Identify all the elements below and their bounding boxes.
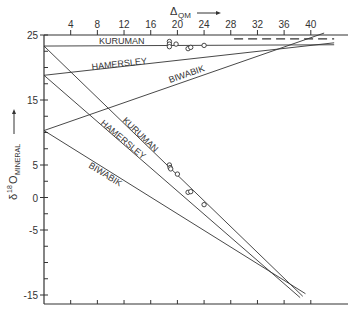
x-axis-title: Δ QM [170, 5, 221, 20]
x-tick-label: 28 [225, 19, 237, 30]
x-tick-label: 16 [145, 19, 157, 30]
series-line [44, 131, 305, 294]
x-arrowhead-icon [216, 11, 221, 15]
data-point-magnetite [202, 202, 206, 206]
y-tick-label: 0 [32, 193, 38, 204]
label-biwabik-quartz: BIWABIK [167, 63, 205, 85]
series-line [44, 75, 300, 297]
label-biwabik-magnetite: BIWABIK [87, 160, 124, 188]
top-x-ticks: 481216202428323640 [68, 19, 317, 35]
x-tick-label: 20 [172, 19, 184, 30]
y-tick-label: -5 [29, 225, 38, 236]
label-kuruman-quartz: KURUMAN [99, 36, 145, 46]
x-tick-label: 4 [68, 19, 74, 30]
x-label-sub: QM [178, 11, 191, 20]
x-tick-label: 40 [305, 19, 317, 30]
data-point-quartz [167, 45, 171, 49]
y-tick-label: 15 [27, 95, 39, 106]
x-tick-label: 32 [252, 19, 264, 30]
x-label-delta: Δ [170, 5, 178, 17]
y-arrowhead-icon [12, 109, 16, 114]
data-point-quartz [202, 43, 206, 47]
y-tick-label: -15 [24, 290, 39, 301]
chart-svg: 481216202428323640 251550-5-15 Δ QM δ 18… [0, 0, 355, 316]
y-axis-title: δ 18 O MINERAL [6, 109, 21, 200]
y-label-o: O [7, 175, 19, 184]
y-tick-label: 5 [32, 160, 38, 171]
oxygen-isotope-chart: 481216202428323640 251550-5-15 Δ QM δ 18… [0, 0, 355, 316]
y-label-sub: MINERAL [14, 144, 21, 175]
data-point-quartz [174, 42, 178, 46]
y-label-sup: 18 [6, 185, 13, 193]
x-tick-label: 24 [199, 19, 211, 30]
x-tick-label: 12 [118, 19, 130, 30]
data-point-quartz [189, 45, 193, 49]
y-label-delta: δ [7, 194, 19, 200]
data-point-magnetite [189, 189, 193, 193]
data-point-magnetite [175, 172, 179, 176]
label-hamersley-quartz: HAMERSLEY [91, 56, 147, 72]
x-tick-label: 8 [95, 19, 101, 30]
data-point-magnetite [169, 167, 173, 171]
series-line [44, 33, 324, 131]
y-tick-label: 25 [27, 30, 39, 41]
x-tick-label: 36 [279, 19, 291, 30]
